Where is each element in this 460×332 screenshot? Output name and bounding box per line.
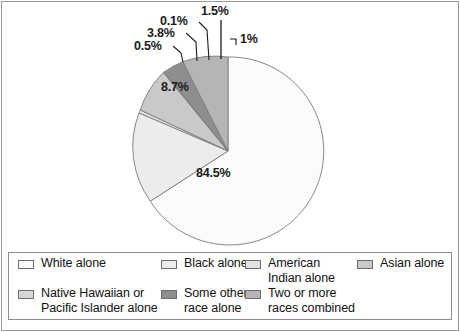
legend-swatch-asian-alone-icon <box>357 260 373 269</box>
legend-label-two-or-more-races-combined: Two or more races combined <box>268 286 355 315</box>
legend-swatch-black-alone-icon <box>161 260 177 269</box>
pie-chart-plot-area: 84.5% 8.7% 0.5% 3.8% 0.1% 1.5% 1% <box>0 0 460 252</box>
slice-label-black-alone: 8.7% <box>161 80 189 94</box>
legend-label-american-indian-alone: American Indian alone <box>268 256 335 285</box>
legend-item-american-indian-alone[interactable]: American Indian alone <box>245 256 335 285</box>
legend-label-some-other-race-alone: Some other race alone <box>184 286 248 315</box>
leader-line-1-percent <box>230 39 236 45</box>
legend-swatch-native-hawaiian-pacific-islander-alone-icon <box>18 290 34 299</box>
legend-item-two-or-more-races-combined[interactable]: Two or more races combined <box>245 286 355 315</box>
legend-label-white-alone: White alone <box>41 256 106 271</box>
slice-label-asian-alone: 3.8% <box>147 26 175 40</box>
legend-swatch-american-indian-alone-icon <box>245 260 261 269</box>
slice-label-two-or-more-races-combined: 1% <box>240 32 258 46</box>
legend-swatch-white-alone-icon <box>18 260 34 269</box>
pie-chart-figure: 84.5% 8.7% 0.5% 3.8% 0.1% 1.5% 1% White … <box>0 0 460 332</box>
legend-swatch-two-or-more-races-combined-icon <box>245 290 261 299</box>
slice-label-white-alone: 84.5% <box>196 166 230 180</box>
legend-row-1: White alone Black alone American Indian … <box>9 256 451 290</box>
legend-item-asian-alone[interactable]: Asian alone <box>357 256 444 271</box>
legend-row-2: Native Hawaiian or Pacific Islander alon… <box>9 286 451 320</box>
pie-svg <box>0 0 460 252</box>
slice-label-american-indian-alone: 0.5% <box>134 39 162 53</box>
chart-legend: White alone Black alone American Indian … <box>8 252 452 320</box>
slice-label-native-hawaiian-pacific-islander-alone: 0.1% <box>160 14 188 28</box>
legend-label-native-hawaiian-pacific-islander-alone: Native Hawaiian or Pacific Islander alon… <box>41 286 158 315</box>
legend-swatch-some-other-race-alone-icon <box>161 290 177 299</box>
legend-item-native-hawaiian-pacific-islander-alone[interactable]: Native Hawaiian or Pacific Islander alon… <box>18 286 158 315</box>
legend-label-asian-alone: Asian alone <box>380 256 444 271</box>
legend-item-black-alone[interactable]: Black alone <box>161 256 248 271</box>
leader-line-0-1-percent <box>199 22 209 60</box>
legend-label-black-alone: Black alone <box>184 256 248 271</box>
leader-line-3-8-percent <box>186 33 197 61</box>
leader-line-0-5-percent <box>173 46 183 62</box>
legend-item-some-other-race-alone[interactable]: Some other race alone <box>161 286 248 315</box>
legend-item-white-alone[interactable]: White alone <box>18 256 106 271</box>
slice-label-some-other-race-alone: 1.5% <box>201 4 229 18</box>
